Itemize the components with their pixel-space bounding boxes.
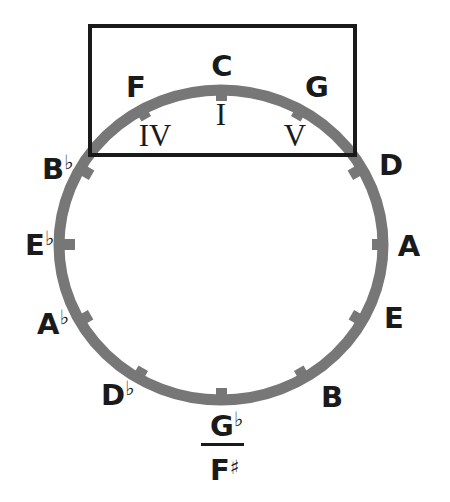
note-label-d: D xyxy=(379,148,403,182)
numeral-v: V xyxy=(284,118,307,153)
diagram-canvas: C G D A E B G♭ F♯ D♭ A♭ E♭ B♭ xyxy=(0,0,450,502)
note-label-b: B xyxy=(321,380,343,414)
tick-g-flat xyxy=(216,388,227,401)
note-label-g: G xyxy=(305,70,329,104)
note-label-e-flat: E♭ xyxy=(25,226,54,262)
numeral-i: I xyxy=(216,97,226,132)
note-label-f: F xyxy=(126,70,146,104)
tick-e-flat xyxy=(62,239,75,250)
note-label-d-flat: D♭ xyxy=(101,376,135,412)
fifths-ring xyxy=(59,90,383,400)
note-label-f-sharp: F♯ xyxy=(210,453,240,487)
tick-a xyxy=(372,239,385,250)
note-label-g-flat: G♭ xyxy=(210,407,243,443)
enharmonic-divider xyxy=(201,443,244,446)
numeral-iv: IV xyxy=(139,118,172,153)
note-label-c: C xyxy=(211,49,232,83)
note-label-a-flat: A♭ xyxy=(37,305,69,341)
note-label-a: A xyxy=(398,229,421,263)
note-label-e: E xyxy=(384,301,404,335)
circle-of-fifths-diagram: C G D A E B G♭ F♯ D♭ A♭ E♭ B♭ xyxy=(0,0,450,502)
